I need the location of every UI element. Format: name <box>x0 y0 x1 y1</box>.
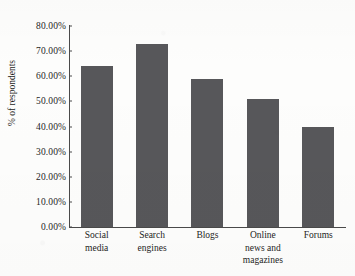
x-tick-label-line: news and <box>235 242 290 255</box>
bar <box>81 66 113 227</box>
y-tick-mark <box>69 26 72 27</box>
bar <box>136 44 168 227</box>
bar-series <box>69 26 346 227</box>
x-tick-label: Socialmedia <box>69 229 124 254</box>
y-tick-mark <box>69 151 72 152</box>
x-tick-label-line: media <box>69 242 124 255</box>
x-axis-line <box>69 227 346 228</box>
x-tick-label: Forums <box>291 229 346 242</box>
y-tick-label: 70.00% <box>4 46 66 56</box>
x-tick-label-line: Search <box>124 229 179 242</box>
x-tick-label-line: engines <box>124 242 179 255</box>
x-tick-label: Searchengines <box>124 229 179 254</box>
y-tick-label: 20.00% <box>4 172 66 182</box>
bar <box>302 127 334 228</box>
y-tick-label: 50.00% <box>4 96 66 106</box>
y-tick-mark <box>69 227 72 228</box>
bar <box>247 99 279 227</box>
bar-slot <box>235 26 290 227</box>
bar <box>191 79 223 227</box>
y-tick-mark <box>69 201 72 202</box>
y-tick-label: 80.00% <box>4 21 66 31</box>
bar-slot <box>180 26 235 227</box>
y-axis-tick-labels: 80.00%70.00%60.00%50.00%40.00%30.00%20.0… <box>0 26 66 227</box>
y-tick-label: 60.00% <box>4 71 66 81</box>
x-tick-label: Onlinenews andmagazines <box>235 229 290 267</box>
x-tick-label-line: magazines <box>235 254 290 267</box>
y-tick-label: 0.00% <box>4 222 66 232</box>
x-tick-label-line: Blogs <box>180 229 235 242</box>
bar-slot <box>291 26 346 227</box>
x-tick-label-line: Social <box>69 229 124 242</box>
x-tick-label-line: Online <box>235 229 290 242</box>
y-tick-mark <box>69 126 72 127</box>
x-tick-label: Blogs <box>180 229 235 242</box>
bar-slot <box>124 26 179 227</box>
x-tick-label-line: Forums <box>291 229 346 242</box>
y-tick-mark <box>69 76 72 77</box>
y-tick-label: 10.00% <box>4 197 66 207</box>
y-tick-mark <box>69 51 72 52</box>
y-tick-label: 30.00% <box>4 147 66 157</box>
x-axis-tick-labels: SocialmediaSearchenginesBlogsOnlinenews … <box>69 229 346 275</box>
chart-figure: % of respondents 80.00%70.00%60.00%50.00… <box>0 0 355 276</box>
y-tick-mark <box>69 101 72 102</box>
bar-slot <box>69 26 124 227</box>
y-tick-label: 40.00% <box>4 122 66 132</box>
y-tick-mark <box>69 176 72 177</box>
